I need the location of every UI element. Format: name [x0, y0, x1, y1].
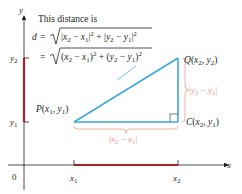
horizontal-brace [74, 126, 178, 133]
formula-line-1: d = |x2 − x1|2 + |y2 − y1|2 [32, 28, 152, 44]
vertical-brace [182, 58, 189, 122]
x2-tick-label: x2 [172, 173, 181, 185]
svg-text:|x2 − x1|2 + |y2 − y1|2: |x2 − x1|2 + |y2 − y1|2 [61, 30, 137, 44]
right-triangle [74, 58, 178, 122]
y-axis-label: y [18, 5, 23, 15]
distance-formula-diagram: x y 0 x1 x2 y2 y1 This distance is d = |… [0, 0, 242, 194]
point-p-label: P(x1, y1) [35, 104, 68, 116]
formula-line-2: = (x2 − x1)2 + (y2 − y1)2 [40, 48, 152, 64]
x1-tick-label: x1 [69, 173, 78, 185]
right-angle-marker [170, 114, 178, 122]
formula-pointer-line [117, 66, 136, 80]
point-q-label: Q(x2, y2) [184, 55, 217, 67]
caption-text: This distance is [38, 14, 97, 24]
svg-text:=: = [40, 32, 45, 42]
horizontal-distance-label: |x2 − x1| [109, 134, 137, 146]
point-c-label: C(x2, y1) [186, 117, 219, 129]
x-axis-label: x [226, 160, 231, 170]
y1-tick-label: y1 [9, 117, 18, 129]
vertical-distance-label: |y2 − y1| [189, 85, 217, 97]
hypotenuse [74, 58, 178, 122]
origin-label: 0 [12, 172, 17, 182]
svg-text:(x2 − x1)2 + (y2 − y1)2: (x2 − x1)2 + (y2 − y1)2 [61, 50, 142, 64]
svg-text:=: = [40, 52, 45, 62]
y2-tick-label: y2 [9, 53, 18, 65]
svg-text:d: d [32, 32, 37, 42]
